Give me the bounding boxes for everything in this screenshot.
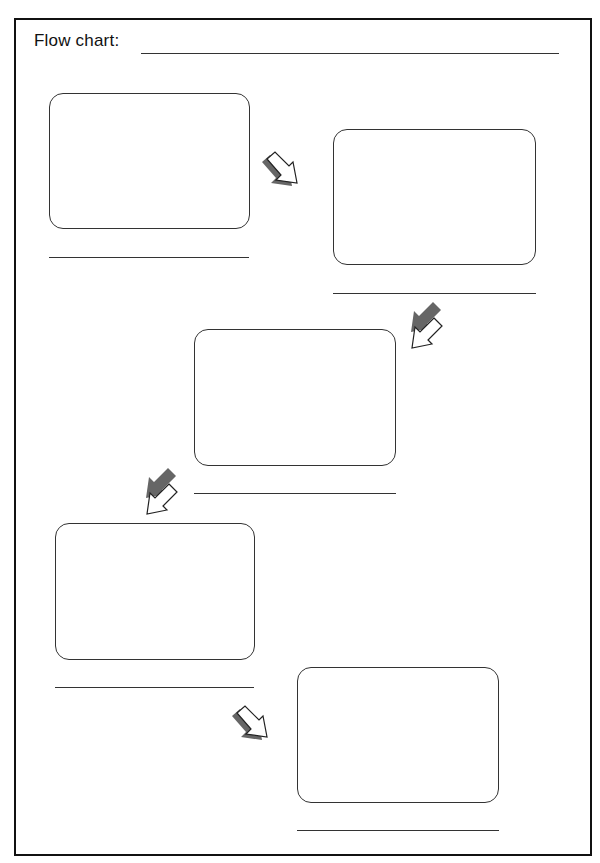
arrow-down-right-icon bbox=[258, 150, 312, 192]
step-4-label-line[interactable] bbox=[55, 687, 254, 688]
step-3-box[interactable] bbox=[194, 329, 396, 466]
step-1-label-line[interactable] bbox=[49, 257, 249, 258]
arrow-down-left-icon bbox=[140, 464, 190, 518]
step-5-label-line[interactable] bbox=[297, 830, 499, 831]
step-2-label-line[interactable] bbox=[333, 293, 536, 294]
step-2-box[interactable] bbox=[333, 129, 536, 265]
step-5-box[interactable] bbox=[297, 667, 499, 803]
step-1-box[interactable] bbox=[49, 93, 250, 229]
arrow-down-left-icon bbox=[405, 298, 453, 352]
worksheet-title: Flow chart: bbox=[34, 31, 119, 51]
title-answer-line[interactable] bbox=[141, 53, 559, 54]
step-4-box[interactable] bbox=[55, 523, 255, 660]
arrow-down-right-icon bbox=[228, 704, 282, 746]
step-3-label-line[interactable] bbox=[194, 493, 396, 494]
